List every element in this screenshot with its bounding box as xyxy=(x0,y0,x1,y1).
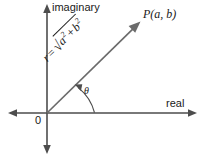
theta-label: θ xyxy=(84,86,89,96)
imaginary-axis xyxy=(43,4,51,154)
diagram-canvas xyxy=(0,0,205,158)
complex-plane-diagram: imaginary real 0 P(a, b) θ r=√a2+b2 xyxy=(0,0,205,158)
imaginary-axis-bottom-arrowhead xyxy=(43,145,51,154)
imaginary-axis-top-arrowhead xyxy=(43,4,51,13)
real-axis-right-arrowhead xyxy=(188,109,197,117)
real-axis-left-arrowhead xyxy=(8,109,17,117)
point-p-label: P(a, b) xyxy=(143,8,176,20)
real-axis-label: real xyxy=(166,98,184,109)
origin-label: 0 xyxy=(35,115,41,126)
